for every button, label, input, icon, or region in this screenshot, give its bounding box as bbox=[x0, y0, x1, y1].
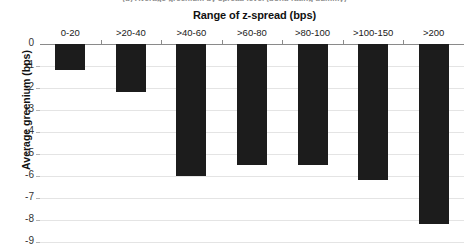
plot-area bbox=[40, 44, 464, 251]
y-tick-label: -3 bbox=[8, 104, 34, 114]
y-tick-label: -9 bbox=[8, 236, 34, 246]
y-tick-mark bbox=[36, 242, 40, 243]
bar bbox=[419, 44, 449, 224]
x-tick-mark bbox=[343, 40, 344, 44]
bar bbox=[237, 44, 267, 165]
y-tick-mark bbox=[36, 110, 40, 111]
y-tick-mark bbox=[36, 66, 40, 67]
gridline bbox=[40, 176, 464, 177]
x-tick-mark bbox=[282, 40, 283, 44]
y-tick-label: -6 bbox=[8, 170, 34, 180]
y-tick-label: -5 bbox=[8, 148, 34, 158]
y-tick-label: -1 bbox=[8, 60, 34, 70]
x-axis-title: Range of z-spread (bps) bbox=[40, 9, 469, 21]
x-tick-mark bbox=[222, 40, 223, 44]
gridline bbox=[40, 220, 464, 221]
gridline bbox=[40, 242, 464, 243]
y-tick-mark bbox=[36, 88, 40, 89]
y-tick-mark bbox=[36, 198, 40, 199]
y-tick-label: -8 bbox=[8, 214, 34, 224]
bar-chart: (b) Average greenium by spread level (bo… bbox=[0, 0, 469, 251]
y-tick-mark bbox=[36, 220, 40, 221]
bar bbox=[358, 44, 388, 180]
x-category-label: >200 bbox=[394, 28, 469, 38]
y-tick-label: -4 bbox=[8, 126, 34, 136]
figure-caption: (b) Average greenium by spread level (bo… bbox=[0, 0, 469, 2]
x-tick-mark bbox=[101, 40, 102, 44]
y-tick-label: 0 bbox=[8, 38, 34, 48]
x-tick-mark bbox=[161, 40, 162, 44]
gridline bbox=[40, 198, 464, 199]
bar bbox=[176, 44, 206, 176]
bar bbox=[298, 44, 328, 165]
y-tick-mark bbox=[36, 176, 40, 177]
y-tick-label: -2 bbox=[8, 82, 34, 92]
x-tick-mark bbox=[403, 40, 404, 44]
y-tick-mark bbox=[36, 154, 40, 155]
y-tick-mark bbox=[36, 132, 40, 133]
bar bbox=[116, 44, 146, 92]
y-tick-label: -7 bbox=[8, 192, 34, 202]
bar bbox=[55, 44, 85, 70]
